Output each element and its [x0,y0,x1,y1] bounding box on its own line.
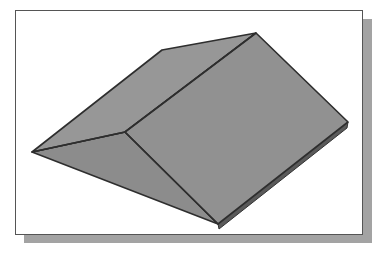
figure [0,0,381,254]
solid-model-view [0,0,381,254]
